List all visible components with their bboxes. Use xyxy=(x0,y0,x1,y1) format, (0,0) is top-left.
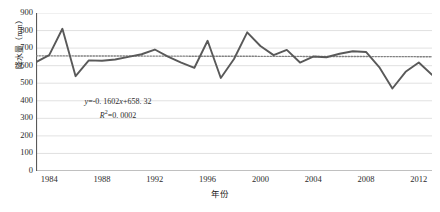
x-axis-tick-label: 1988 xyxy=(82,174,122,184)
x-axis-tick-label: 2000 xyxy=(240,174,280,184)
x-axis-tick-label: 2008 xyxy=(346,174,386,184)
gridlines xyxy=(36,13,432,153)
y-axis-tick-label: 400 xyxy=(3,96,33,105)
r-squared-value: R2=0. 0002 xyxy=(54,107,182,121)
precipitation-line-chart: 降水量（mm） 0100200300400500600700800900 y=-… xyxy=(0,0,440,212)
x-axis-tick-label: 2012 xyxy=(399,174,439,184)
x-axis-tick-label: 1984 xyxy=(29,174,69,184)
regression-equation: y=-0. 1602x+658. 32 xyxy=(54,96,182,107)
y-axis-tick-label: 800 xyxy=(3,26,33,35)
x-axis-tick-label: 2004 xyxy=(293,174,333,184)
y-axis-tick-label: 900 xyxy=(3,8,33,17)
plot-area: y=-0. 1602x+658. 32 R2=0. 0002 xyxy=(36,13,432,171)
trendline xyxy=(36,56,432,57)
y-axis-tick-label: 600 xyxy=(3,61,33,70)
y-axis-tick-label: 200 xyxy=(3,131,33,140)
x-axis-tick-labels: 19841988199219962000200420082012 xyxy=(36,174,432,186)
y-axis-tick-label: 300 xyxy=(3,113,33,122)
r2-number: =0. 0002 xyxy=(108,111,137,120)
y-axis-tick-label: 500 xyxy=(3,78,33,87)
y-axis-tick-labels: 0100200300400500600700800900 xyxy=(0,13,33,171)
data-series-line xyxy=(36,29,432,89)
y-axis-tick-label: 100 xyxy=(3,148,33,157)
x-axis-tick-label: 1996 xyxy=(188,174,228,184)
y-axis-tick-label: 700 xyxy=(3,43,33,52)
regression-annotation: y=-0. 1602x+658. 32 R2=0. 0002 xyxy=(54,96,182,121)
plot-svg xyxy=(36,13,432,171)
equation-suffix: +658. 32 xyxy=(123,97,152,106)
x-axis-tick-label: 1992 xyxy=(135,174,175,184)
x-axis-title: 年份 xyxy=(0,189,440,199)
equation-body: =-0. 1602 xyxy=(88,97,119,106)
